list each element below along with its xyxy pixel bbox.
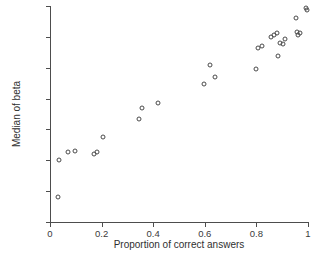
data-point <box>66 150 71 155</box>
x-tick-label: 0.6 <box>198 229 211 239</box>
data-point <box>73 148 78 153</box>
data-point <box>156 100 161 105</box>
data-point <box>260 44 265 49</box>
data-point <box>208 63 213 68</box>
y-tick-mark <box>46 129 50 130</box>
data-point <box>212 74 217 79</box>
x-tick-mark <box>153 223 154 227</box>
data-point <box>202 82 207 87</box>
x-tick-label: 0 <box>47 229 52 239</box>
x-tick-mark <box>308 223 309 227</box>
x-tick-mark <box>50 223 51 227</box>
y-tick-mark <box>46 99 50 100</box>
data-point <box>254 66 259 71</box>
data-point <box>137 117 142 122</box>
x-tick-mark <box>102 223 103 227</box>
y-axis-title: Median of beta <box>10 6 24 222</box>
x-axis-title: Proportion of correct answers <box>50 240 308 250</box>
data-point <box>55 195 60 200</box>
data-point <box>94 150 99 155</box>
plot-area: 0.60.40.20−0.2−0.4−0.6−0.8 00.20.40.60.8… <box>50 6 308 222</box>
y-axis-line <box>50 6 51 223</box>
x-tick-mark <box>205 223 206 227</box>
x-tick-label: 0.8 <box>250 229 263 239</box>
y-tick-mark <box>46 191 50 192</box>
data-point <box>304 7 309 12</box>
y-tick-mark <box>46 6 50 7</box>
data-point <box>140 106 145 111</box>
x-tick-label: 1 <box>305 229 310 239</box>
data-point <box>297 31 302 36</box>
x-tick-mark <box>256 223 257 227</box>
x-tick-label: 0.4 <box>147 229 160 239</box>
x-axis-line <box>50 222 309 223</box>
data-point <box>276 53 281 58</box>
scatter-plot-figure: 0.60.40.20−0.2−0.4−0.6−0.8 00.20.40.60.8… <box>0 0 317 261</box>
y-tick-mark <box>46 160 50 161</box>
data-point <box>100 135 105 140</box>
data-point <box>280 42 285 47</box>
data-point <box>57 158 62 163</box>
data-point <box>283 36 288 41</box>
x-tick-label: 0.2 <box>95 229 108 239</box>
y-tick-mark <box>46 37 50 38</box>
data-point <box>293 15 298 20</box>
y-tick-mark <box>46 68 50 69</box>
data-point <box>274 31 279 36</box>
